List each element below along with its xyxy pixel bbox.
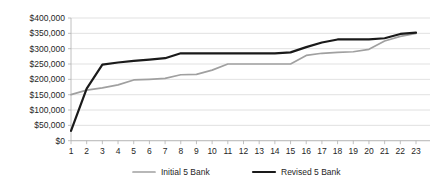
- x-axis-tick-label: 15: [286, 146, 296, 156]
- y-axis-tick-label: $250,000: [30, 59, 66, 69]
- x-axis-tick-label: 6: [147, 146, 152, 156]
- x-axis-tick-label: 3: [100, 146, 105, 156]
- y-axis-tick-label: $50,000: [34, 120, 65, 130]
- data-series: [71, 33, 416, 131]
- x-axis-tick-label: 19: [349, 146, 359, 156]
- x-axis-tick-label: 21: [380, 146, 390, 156]
- chart-legend: Initial 5 BankRevised 5 Bank: [133, 167, 341, 177]
- line-chart: $400,000$350,000$300,000$250,000$200,000…: [0, 0, 435, 187]
- y-axis-tick-labels: $400,000$350,000$300,000$250,000$200,000…: [30, 13, 66, 146]
- y-axis-tick-label: $0: [56, 136, 66, 146]
- gridlines: [68, 18, 430, 141]
- x-axis-tick-label: 12: [239, 146, 249, 156]
- x-axis-tick-label: 1: [69, 146, 74, 156]
- x-axis-tick-label: 23: [411, 146, 421, 156]
- x-axis-tick-label: 22: [396, 146, 406, 156]
- x-axis-tick-label: 8: [178, 146, 183, 156]
- legend-label-initial-5-bank: Initial 5 Bank: [161, 167, 210, 177]
- chart-container: $400,000$350,000$300,000$250,000$200,000…: [0, 0, 435, 187]
- x-axis-tick-labels: 1234567891011121314151617181920212223: [69, 146, 421, 156]
- x-axis-tick-label: 4: [116, 146, 121, 156]
- x-axis-tick-label: 5: [131, 146, 136, 156]
- y-axis-tick-label: $300,000: [30, 44, 66, 54]
- x-axis-tick-label: 11: [223, 146, 232, 156]
- y-axis-tick-label: $150,000: [30, 90, 66, 100]
- x-axis-tick-label: 9: [194, 146, 199, 156]
- x-axis-tick-label: 18: [333, 146, 343, 156]
- legend-label-revised-5-bank: Revised 5 Bank: [281, 167, 341, 177]
- x-axis-tick-label: 20: [364, 146, 374, 156]
- x-axis-tick-label: 13: [254, 146, 264, 156]
- y-axis-tick-label: $100,000: [30, 105, 66, 115]
- y-axis-tick-label: $350,000: [30, 28, 66, 38]
- x-axis-tick-label: 17: [317, 146, 327, 156]
- x-axis-tick-label: 14: [270, 146, 280, 156]
- x-axis-tick-label: 7: [163, 146, 168, 156]
- x-axis-tick-label: 16: [301, 146, 311, 156]
- series-line-revised-5-bank: [71, 33, 416, 131]
- y-axis-tick-label: $200,000: [30, 74, 66, 84]
- x-axis-tick-label: 10: [207, 146, 217, 156]
- y-axis-tick-label: $400,000: [30, 13, 66, 23]
- x-axis-tick-label: 2: [84, 146, 89, 156]
